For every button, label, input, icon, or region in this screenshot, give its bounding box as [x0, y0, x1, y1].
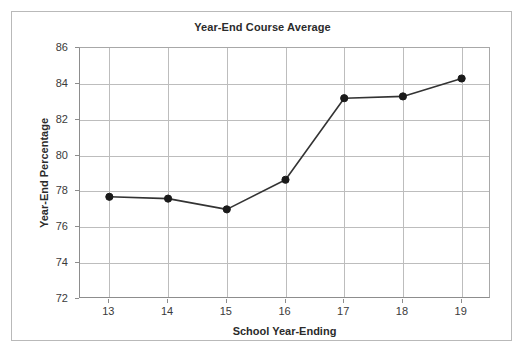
y-axis-tick-label: 78	[40, 184, 68, 196]
data-point-marker	[399, 93, 406, 100]
y-axis-title: Year-End Percentage	[38, 117, 50, 227]
data-point-marker	[106, 193, 113, 200]
x-axis-tick-label: 14	[147, 305, 187, 317]
chart-figure: Year-End Course Average Year-End Percent…	[11, 11, 512, 341]
y-axis-tick-label: 74	[40, 256, 68, 268]
y-axis-tick-label: 84	[40, 77, 68, 89]
x-axis-tick-label: 18	[382, 305, 422, 317]
x-axis-tick-mark	[226, 299, 227, 303]
data-point-marker	[164, 195, 171, 202]
y-axis-tick-label: 80	[40, 149, 68, 161]
data-point-marker	[341, 95, 348, 102]
x-axis-tick-label: 19	[441, 305, 481, 317]
x-axis-tick-label: 17	[323, 305, 363, 317]
data-series-line	[80, 48, 491, 299]
plot-area	[79, 47, 490, 298]
data-point-marker	[282, 176, 289, 183]
data-point-marker	[223, 206, 230, 213]
series-polyline	[109, 78, 461, 209]
x-axis-tick-mark	[343, 299, 344, 303]
x-axis-tick-mark	[108, 299, 109, 303]
x-axis-tick-mark	[285, 299, 286, 303]
y-axis-tick-label: 72	[40, 292, 68, 304]
x-axis-tick-mark	[461, 299, 462, 303]
x-axis-tick-label: 16	[265, 305, 305, 317]
x-axis-tick-mark	[402, 299, 403, 303]
x-axis-title: School Year-Ending	[79, 325, 490, 337]
y-axis-tick-mark	[75, 298, 79, 299]
x-axis-tick-mark	[167, 299, 168, 303]
data-point-marker	[458, 75, 465, 82]
x-axis-tick-label: 13	[88, 305, 128, 317]
y-axis-tick-label: 86	[40, 41, 68, 53]
x-axis-tick-label: 15	[206, 305, 246, 317]
chart-title: Year-End Course Average	[12, 21, 513, 33]
y-axis-tick-label: 82	[40, 113, 68, 125]
y-axis-tick-label: 76	[40, 220, 68, 232]
